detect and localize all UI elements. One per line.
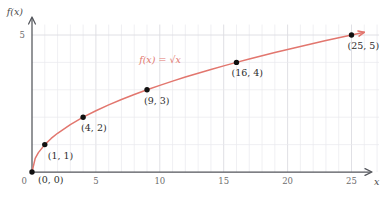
data-point — [144, 87, 149, 92]
x-tick-label: 5 — [93, 176, 98, 186]
chart-figure: (0, 0)(1, 1)(4, 2)(9, 3)(16, 4)(25, 5) 0… — [0, 0, 391, 198]
data-point-label: (1, 1) — [48, 150, 74, 161]
function-equation-label: f(x) = √x — [138, 54, 181, 65]
data-point-label: (16, 4) — [231, 67, 263, 78]
data-point — [42, 142, 47, 147]
x-tick-label: 10 — [154, 176, 165, 186]
data-point — [234, 60, 239, 65]
data-point — [349, 32, 354, 37]
data-point — [29, 169, 34, 174]
x-tick-label: 15 — [218, 176, 229, 186]
x-axis-title: x — [374, 176, 380, 187]
data-point-label: (25, 5) — [348, 40, 380, 51]
plot-svg: (0, 0)(1, 1)(4, 2)(9, 3)(16, 4)(25, 5) 0… — [0, 0, 391, 198]
x-tick-label: 25 — [346, 176, 357, 186]
x-tick-label: 20 — [282, 176, 293, 186]
x-tick-label: 0 — [22, 176, 27, 186]
y-axis-title: f(x) — [6, 6, 24, 17]
data-point-label: (0, 0) — [38, 174, 64, 185]
chart-background — [0, 0, 391, 198]
data-point-label: (4, 2) — [81, 122, 107, 133]
y-tick-label: 5 — [20, 30, 25, 40]
data-point-label: (9, 3) — [144, 95, 170, 106]
curve-annotation-layer: f(x) = √x — [138, 54, 181, 65]
data-point — [80, 115, 85, 120]
